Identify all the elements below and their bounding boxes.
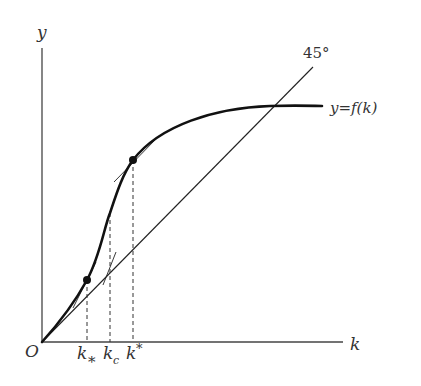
tick-label-k-lower: k *	[77, 343, 96, 371]
origin-label: O	[25, 341, 39, 361]
forty-five-degree-label: 45°	[303, 44, 330, 62]
tick-label-k-upper-main: k	[126, 343, 136, 363]
tick-label-k-c: k c	[103, 343, 119, 367]
diagram-canvas: y k O 45° y=f(k) k * k c k *	[0, 0, 421, 386]
tick-label-k-upper-sup: *	[136, 341, 143, 356]
tick-label-k-lower-main: k	[77, 343, 87, 363]
tick-label-k-upper: k *	[126, 341, 143, 363]
tick-label-k-lower-sub: *	[88, 353, 96, 371]
point-k-lower	[83, 276, 91, 284]
point-k-upper	[129, 156, 137, 164]
tick-label-k-c-sub: c	[113, 354, 119, 367]
tick-label-k-c-main: k	[103, 343, 113, 363]
y-axis-label: y	[36, 22, 47, 42]
production-function-label: y=f(k)	[329, 99, 378, 117]
x-axis-label: k	[350, 334, 360, 354]
production-function-curve	[42, 106, 322, 342]
forty-five-degree-line	[42, 67, 313, 342]
